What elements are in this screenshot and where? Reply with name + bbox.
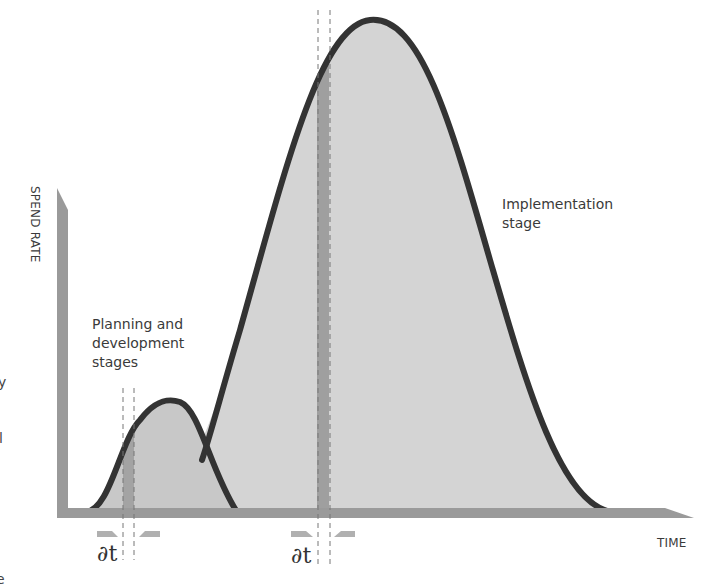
x-axis-label: TIME [656,536,687,550]
planning-dt-wedge-left [97,531,118,537]
edge-text-fragment-1: y [0,374,6,390]
implementation-dt-symbol: ∂t [291,543,311,568]
planning-label-line-2: development [92,335,185,351]
x-axis [57,508,694,518]
implementation-label-line-2: stage [502,215,541,231]
implementation-dt-wedge-left [291,531,313,537]
planning-dt-symbol: ∂t [97,541,117,566]
spend-rate-diagram: ∂t ∂t SPEND RATE TIME Planning and devel… [0,0,724,587]
y-axis-label: SPEND RATE [28,186,42,263]
planning-label-line-1: Planning and [92,316,183,332]
edge-text-fragment-2: l [0,430,3,446]
edge-text-fragment-3: e [0,571,5,587]
implementation-dt-wedge-right [334,531,355,537]
y-axis [57,188,68,518]
planning-label-line-3: stages [92,354,138,370]
planning-dt-wedge-right [139,531,160,537]
implementation-label-line-1: Implementation [502,196,613,212]
